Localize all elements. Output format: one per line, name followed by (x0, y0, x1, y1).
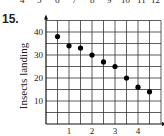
x-tick-label: 2 (90, 126, 95, 136)
y-tick-label: 20 (34, 73, 44, 83)
data-point (147, 89, 152, 94)
x-tick-label: 3 (113, 126, 118, 136)
data-point (78, 46, 83, 51)
x-tick-label: 4 (136, 126, 141, 136)
x-tick-label: 1 (67, 126, 72, 136)
y-tick-label: 30 (34, 50, 44, 60)
x-axis-arrow-icon (162, 122, 164, 126)
data-point (124, 75, 129, 80)
data-point (89, 52, 94, 57)
data-point (135, 85, 140, 90)
data-point (55, 34, 60, 39)
y-axis-label: Insects landing (17, 41, 29, 111)
data-point (66, 43, 71, 48)
y-tick-label: 10 (34, 96, 44, 106)
y-axis-arrow-icon (44, 15, 48, 20)
data-point (112, 64, 117, 69)
data-point (101, 59, 106, 64)
y-tick-label: 40 (34, 27, 44, 37)
